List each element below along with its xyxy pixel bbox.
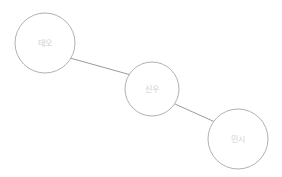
graph-diagram: 태오 신우 민시 [0,0,282,177]
node-label-sinu: 신우 [145,85,159,94]
graph-canvas: 태오 신우 민시 [0,0,282,177]
node-label-taeo: 태오 [38,39,52,48]
edge-sinu-minsi [175,104,215,122]
node-label-minsi: 민시 [231,134,245,144]
graph-node-taeo[interactable]: 태오 [15,13,75,73]
graph-node-sinu[interactable]: 신우 [125,62,179,116]
graph-node-minsi[interactable]: 민시 [208,109,268,169]
edge-taeo-sinu [70,58,131,75]
